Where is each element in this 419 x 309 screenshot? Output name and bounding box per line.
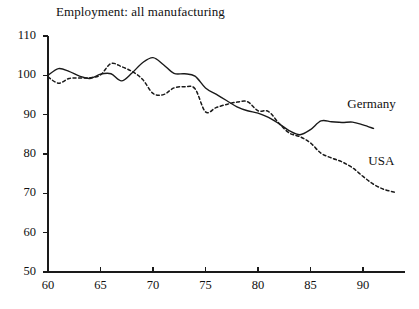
y-axis-tick-label: 50 [10,264,36,279]
series-label-germany: Germany [347,96,395,112]
x-axis-tick-label: 75 [193,278,219,293]
y-axis-tick-label: 70 [10,185,36,200]
line-chart-plot [0,0,419,309]
series-line-usa [48,63,395,192]
x-axis-tick-label: 60 [35,278,61,293]
chart-figure: Employment: all manufacturing 5060708090… [0,0,419,309]
y-axis-tick-label: 60 [10,225,36,240]
x-axis-tick-label: 70 [140,278,166,293]
x-axis-tick-label: 85 [298,278,324,293]
x-axis-tick-label: 90 [350,278,376,293]
y-axis-tick-label: 80 [10,146,36,161]
chart-ticks [43,36,363,272]
series-label-usa: USA [368,153,394,169]
y-axis-tick-label: 90 [10,107,36,122]
y-axis-tick-label: 100 [10,67,36,82]
x-axis-tick-label: 80 [245,278,271,293]
chart-series [48,58,395,193]
series-line-germany [48,58,374,135]
x-axis-tick-label: 65 [88,278,114,293]
chart-axes [48,36,405,272]
y-axis-tick-label: 110 [10,28,36,43]
